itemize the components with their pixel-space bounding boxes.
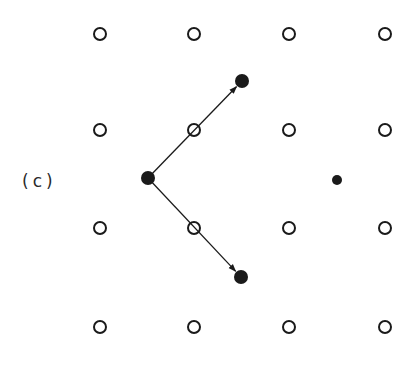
open-lattice-point-r3-c2 <box>283 321 295 333</box>
open-lattice-point-r0-c1 <box>188 28 200 40</box>
open-lattice-point-r3-c1 <box>188 321 200 333</box>
filled-point-origin <box>141 171 155 185</box>
filled-point-right-point <box>332 175 342 185</box>
open-lattice-point-r0-c0 <box>94 28 106 40</box>
arrow-down <box>148 178 236 271</box>
filled-point-upper-target <box>235 74 249 88</box>
open-lattice-point-r1-c3 <box>379 124 391 136</box>
filled-points <box>141 74 342 284</box>
open-lattice-point-r3-c3 <box>379 321 391 333</box>
open-lattice-point-r0-c3 <box>379 28 391 40</box>
arrow-vectors <box>148 87 236 271</box>
filled-point-lower-target <box>234 270 248 284</box>
open-lattice-point-r2-c3 <box>379 222 391 234</box>
open-lattice-point-r0-c2 <box>283 28 295 40</box>
open-lattice-point-r1-c0 <box>94 124 106 136</box>
lattice-diagram <box>0 0 416 370</box>
open-lattice-points <box>94 28 391 333</box>
open-lattice-point-r2-c0 <box>94 222 106 234</box>
open-lattice-point-r2-c2 <box>283 222 295 234</box>
open-lattice-point-r3-c0 <box>94 321 106 333</box>
arrow-up <box>148 87 236 178</box>
open-lattice-point-r1-c2 <box>283 124 295 136</box>
